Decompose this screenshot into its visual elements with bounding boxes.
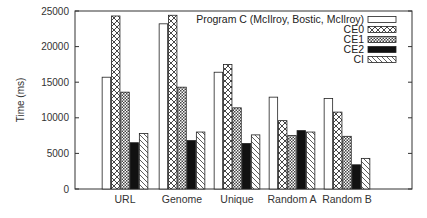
bar-program-unique: [214, 72, 223, 189]
x-tick-label: Random A: [267, 193, 316, 205]
x-tick-label: Random B: [322, 193, 372, 205]
legend-swatch: [368, 37, 396, 43]
y-tick-label: 15000: [41, 77, 69, 88]
bar-ci-random-a: [306, 132, 315, 189]
bar-ce0-random-b: [333, 112, 342, 189]
y-tick-label: 25000: [41, 6, 69, 17]
bar-ce1-genome: [178, 87, 187, 189]
legend-swatch: [368, 47, 396, 53]
bar-ce2-genome: [187, 141, 196, 189]
bar-ce1-url: [121, 92, 130, 189]
bar-ci-unique: [251, 135, 260, 189]
legend-swatch: [368, 27, 396, 33]
bar-ce2-unique: [242, 143, 251, 189]
bar-chart: Time (ms) 0500010000150002000025000 URLG…: [0, 0, 427, 218]
x-axis-labels: URLGenomeUniqueRandom ARandom B: [114, 193, 371, 205]
bar-program-random-a: [269, 97, 278, 189]
x-tick-label: Genome: [162, 193, 202, 205]
x-tick-label: Unique: [220, 193, 253, 205]
y-tick-label: 20000: [41, 41, 69, 52]
y-tick-label: 5000: [47, 148, 70, 159]
legend-label: Program C (McIlroy, Bostic, McIlroy): [196, 13, 364, 25]
bar-ce1-unique: [233, 108, 242, 189]
bar-program-url: [102, 77, 111, 189]
bar-ci-random-b: [361, 158, 370, 189]
bar-program-genome: [159, 24, 168, 189]
bars: [102, 15, 370, 189]
bar-ce0-url: [111, 16, 120, 189]
bar-ce2-random-b: [352, 165, 361, 189]
bar-ci-genome: [196, 132, 205, 189]
bar-ce0-genome: [168, 15, 177, 189]
bar-ce1-random-a: [288, 136, 297, 189]
bar-ce2-random-a: [297, 131, 306, 189]
bar-program-random-b: [324, 99, 333, 189]
legend: Program C (McIlroy, Bostic, McIlroy)CE0C…: [196, 13, 396, 65]
legend-label: CI: [354, 53, 365, 65]
bar-ce2-url: [130, 143, 139, 189]
legend-swatch: [368, 17, 396, 23]
bar-ce0-random-a: [278, 121, 287, 189]
x-tick-label: URL: [114, 193, 135, 205]
bar-ce1-random-b: [343, 136, 352, 189]
bar-ce0-unique: [223, 64, 232, 189]
bar-ci-url: [139, 133, 148, 189]
y-tick-label: 0: [63, 184, 69, 195]
y-axis-label: Time (ms): [15, 78, 26, 123]
y-axis-title: Time (ms): [15, 78, 26, 123]
y-tick-label: 10000: [41, 112, 69, 123]
legend-swatch: [368, 57, 396, 63]
